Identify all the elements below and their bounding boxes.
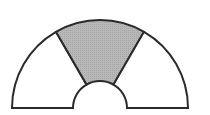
- sector-group: [12, 20, 188, 108]
- semicircle-sector-diagram: [0, 0, 210, 115]
